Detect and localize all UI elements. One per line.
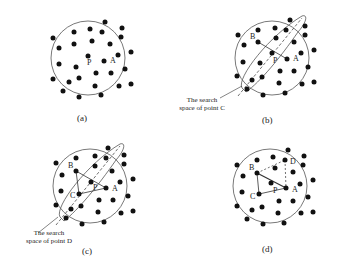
label-a: A: [292, 185, 298, 194]
panel-a: P A (a): [0, 0, 180, 133]
panel-c: B C P A The search space of point D (c): [0, 133, 180, 266]
label-b: B: [250, 32, 255, 41]
panel-d: B D C P A (d): [180, 133, 359, 266]
caption-b: (b): [262, 115, 273, 125]
label-c: C: [70, 191, 75, 200]
label-p: P: [273, 56, 277, 65]
label-p: P: [273, 186, 277, 195]
label-p: P: [93, 183, 97, 192]
label-a: A: [110, 56, 116, 65]
figure: P A (a) B P A: [0, 0, 359, 266]
label-b: B: [249, 163, 254, 172]
caption-a: (a): [77, 113, 87, 123]
label-a: A: [293, 54, 299, 63]
label-a: A: [112, 184, 118, 193]
search-space-annotation: The search space of point C: [172, 96, 232, 112]
label-c: C: [250, 192, 255, 201]
label-p: P: [87, 58, 91, 67]
point-cloud: [51, 20, 134, 100]
panel-b-graphic: [180, 0, 359, 133]
label-d: D: [290, 157, 296, 166]
label-b: B: [68, 161, 73, 170]
panel-b: B P A The search space of point C (b): [180, 0, 359, 133]
caption-c: (c): [82, 246, 92, 256]
caption-d: (d): [262, 244, 273, 254]
search-space-annotation: The search space of point D: [19, 229, 79, 245]
